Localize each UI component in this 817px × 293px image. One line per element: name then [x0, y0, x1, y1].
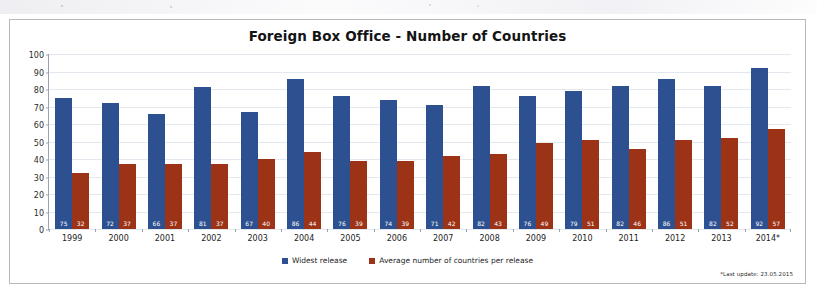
- x-axis-tick-label: 2011: [606, 234, 652, 243]
- bar-average-countries: 49: [536, 143, 553, 229]
- bar-group: 71422007: [420, 54, 466, 229]
- x-axis-tick-mark: [374, 229, 375, 232]
- bar-group: 72372000: [95, 54, 141, 229]
- bar-group: 66372001: [142, 54, 188, 229]
- bar-widest-release: 76: [333, 96, 350, 229]
- bar-average-countries: 44: [304, 152, 321, 229]
- x-axis-tick-mark: [698, 229, 699, 232]
- bar-average-countries: 52: [721, 138, 738, 229]
- y-axis-tick-label: 50: [34, 138, 44, 147]
- x-axis-tick-label: 2012: [652, 234, 698, 243]
- bar-value-label: 40: [258, 221, 275, 227]
- bar-widest-release: 74: [380, 100, 397, 230]
- bar-widest-release: 67: [241, 112, 258, 229]
- bar-value-label: 76: [519, 221, 536, 227]
- x-axis-tick-label: 2004: [281, 234, 327, 243]
- bar-value-label: 74: [380, 221, 397, 227]
- bar-average-countries: 43: [490, 154, 507, 229]
- bar-value-label: 67: [241, 221, 258, 227]
- bar-value-label: 82: [704, 221, 721, 227]
- bar-group: 81372002: [188, 54, 234, 229]
- bar-widest-release: 75: [55, 98, 72, 229]
- legend-swatch-icon: [369, 258, 375, 264]
- x-axis-tick-mark: [95, 229, 96, 232]
- bar-widest-release: 86: [287, 79, 304, 230]
- y-axis-tick-label: 0: [39, 226, 44, 235]
- bar-group: 92572014*: [745, 54, 791, 229]
- bar-value-label: 86: [287, 221, 304, 227]
- bar-widest-release: 72: [102, 103, 119, 229]
- x-axis-tick-label: 2007: [420, 234, 466, 243]
- x-axis-tick-mark: [281, 229, 282, 232]
- bar-value-label: 79: [565, 221, 582, 227]
- bar-value-label: 82: [473, 221, 490, 227]
- plot-inner: 1009080706050403020100 75321999723720006…: [48, 54, 791, 230]
- bar-widest-release: 79: [565, 91, 582, 229]
- bar-value-label: 39: [397, 221, 414, 227]
- x-axis-tick-mark: [513, 229, 514, 232]
- bar-value-label: 43: [490, 221, 507, 227]
- bar-value-label: 71: [426, 221, 443, 227]
- bar-value-label: 72: [102, 221, 119, 227]
- bar-average-countries: 39: [397, 161, 414, 229]
- x-axis-tick-mark: [466, 229, 467, 232]
- bar-average-countries: 37: [211, 164, 228, 229]
- y-axis-tick-label: 100: [29, 51, 44, 60]
- legend-label: Widest release: [292, 256, 347, 265]
- bar-value-label: 49: [536, 221, 553, 227]
- bar-average-countries: 42: [443, 156, 460, 230]
- bar-value-label: 86: [658, 221, 675, 227]
- x-axis-tick-label: 2013: [698, 234, 744, 243]
- bar-widest-release: 82: [473, 86, 490, 230]
- legend-swatch-icon: [282, 258, 288, 264]
- x-axis-tick-mark: [559, 229, 560, 232]
- chart-title: Foreign Box Office - Number of Countries: [10, 28, 805, 44]
- bar-value-label: 42: [443, 221, 460, 227]
- bar-average-countries: 40: [258, 159, 275, 229]
- bar-group: 76392005: [327, 54, 373, 229]
- x-axis-tick-mark: [188, 229, 189, 232]
- bar-group: 82462011: [606, 54, 652, 229]
- bar-group: 75321999: [49, 54, 95, 229]
- bar-average-countries: 37: [165, 164, 182, 229]
- x-axis-tick-mark: [652, 229, 653, 232]
- bar-value-label: 66: [148, 221, 165, 227]
- bar-value-label: 92: [751, 221, 768, 227]
- y-axis-tick-label: 10: [34, 208, 44, 217]
- y-axis-tick-label: 70: [34, 103, 44, 112]
- bars-layer: 7532199972372000663720018137200267402003…: [49, 54, 791, 229]
- bar-value-label: 37: [119, 221, 136, 227]
- bar-widest-release: 81: [194, 87, 211, 229]
- x-axis-tick-label: 1999: [49, 234, 95, 243]
- bar-value-label: 37: [211, 221, 228, 227]
- x-axis-tick-label: 2006: [374, 234, 420, 243]
- bar-average-countries: 46: [629, 149, 646, 230]
- bar-value-label: 52: [721, 221, 738, 227]
- x-axis-tick-mark: [790, 229, 791, 232]
- bar-value-label: 82: [612, 221, 629, 227]
- bar-value-label: 39: [350, 221, 367, 227]
- bar-group: 67402003: [235, 54, 281, 229]
- bar-group: 76492009: [513, 54, 559, 229]
- legend-label: Average number of countries per release: [379, 256, 533, 265]
- scan-artifact-strip: [0, 0, 817, 14]
- chart-frame: Foreign Box Office - Number of Countries…: [9, 19, 806, 284]
- bar-group: 79512010: [559, 54, 605, 229]
- bar-widest-release: 66: [148, 114, 165, 230]
- y-axis-tick-label: 90: [34, 68, 44, 77]
- bar-group: 86442004: [281, 54, 327, 229]
- plot-area: 1009080706050403020100 75321999723720006…: [48, 54, 791, 230]
- x-axis-tick-label: 2001: [142, 234, 188, 243]
- x-axis-tick-mark: [142, 229, 143, 232]
- bar-average-countries: 39: [350, 161, 367, 229]
- bar-group: 82522013: [698, 54, 744, 229]
- bar-widest-release: 82: [612, 86, 629, 230]
- x-axis-tick-mark: [420, 229, 421, 232]
- bar-widest-release: 82: [704, 86, 721, 230]
- bar-widest-release: 76: [519, 96, 536, 229]
- x-axis-tick-mark: [49, 229, 50, 232]
- x-axis-tick-mark: [606, 229, 607, 232]
- bar-value-label: 81: [194, 221, 211, 227]
- y-axis-tick-label: 40: [34, 156, 44, 165]
- bar-average-countries: 32: [72, 173, 89, 229]
